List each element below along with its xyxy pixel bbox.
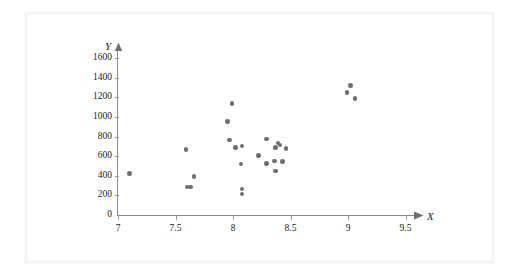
data-point <box>240 192 245 197</box>
y-axis-tick <box>115 97 119 98</box>
y-axis-tick <box>115 137 119 138</box>
data-point <box>278 143 283 148</box>
data-point <box>240 187 245 192</box>
data-point <box>239 162 244 167</box>
data-point <box>353 96 358 101</box>
data-point <box>227 138 232 143</box>
x-axis-title: X <box>427 211 434 222</box>
data-point <box>184 147 189 152</box>
y-axis-arrow-icon <box>113 42 124 53</box>
x-axis-tick-label: 7 <box>98 224 138 234</box>
y-axis-tick-label: 0 <box>66 210 112 220</box>
x-axis-arrow-icon <box>412 210 424 221</box>
data-point <box>284 146 289 151</box>
data-point <box>240 144 245 149</box>
x-axis-tick-label: 9 <box>328 224 368 234</box>
x-axis-tick-label: 9.5 <box>386 224 426 234</box>
y-axis-tick-label: 1000 <box>66 112 112 122</box>
x-axis-line <box>117 215 415 216</box>
data-point <box>264 137 269 142</box>
data-point <box>192 174 197 179</box>
data-point <box>345 90 350 95</box>
data-point <box>273 145 278 150</box>
y-axis-tick-label: 200 <box>66 190 112 200</box>
data-point <box>188 185 193 190</box>
y-axis-tick <box>115 156 119 157</box>
y-axis-tick-label: 1600 <box>66 53 112 63</box>
x-axis-tick-label: 8.5 <box>271 224 311 234</box>
y-axis-line <box>117 50 118 216</box>
scatter-plot-area: Y X 02004006008001000120014001600 77.588… <box>0 0 519 280</box>
data-point <box>348 83 353 88</box>
y-axis-tick <box>115 176 119 177</box>
data-point <box>272 159 277 164</box>
data-point <box>230 101 235 106</box>
y-axis-tick-label: 1400 <box>66 73 112 83</box>
x-axis-tick-label: 8 <box>213 224 253 234</box>
y-axis-tick <box>115 78 119 79</box>
figure-root: Y X 02004006008001000120014001600 77.588… <box>0 0 519 280</box>
y-axis-tick <box>115 117 119 118</box>
y-axis-title: Y <box>105 41 111 52</box>
y-axis-tick-label: 800 <box>66 132 112 142</box>
data-point <box>225 119 230 124</box>
x-axis-tick <box>406 216 407 220</box>
x-axis-tick-label: 7.5 <box>156 224 196 234</box>
y-axis-tick <box>115 195 119 196</box>
x-axis-tick <box>176 216 177 220</box>
x-axis-tick <box>118 216 119 220</box>
x-axis-tick <box>233 216 234 220</box>
y-axis-tick <box>115 58 119 59</box>
data-point <box>256 153 261 158</box>
data-point <box>280 159 285 164</box>
y-axis-tick-label: 1200 <box>66 92 112 102</box>
data-point <box>264 161 269 166</box>
y-axis-tick-label: 600 <box>66 151 112 161</box>
data-point <box>127 171 132 176</box>
x-axis-tick <box>291 216 292 220</box>
data-point <box>233 145 238 150</box>
y-axis-tick-label: 400 <box>66 171 112 181</box>
data-point <box>273 169 278 174</box>
x-axis-tick <box>348 216 349 220</box>
